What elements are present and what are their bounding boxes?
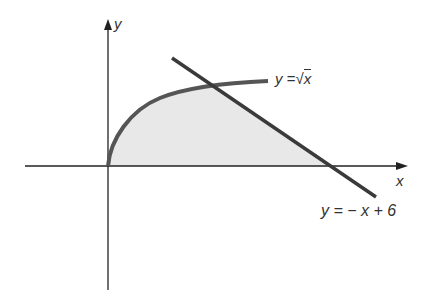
curve-label-lhs: y (275, 70, 283, 87)
y-axis-arrow-icon (104, 19, 112, 30)
curve-label-arg: x (304, 69, 312, 87)
y-axis-label: y (114, 15, 122, 32)
figure: y x y =√x y = − x + 6 (0, 0, 431, 295)
x-axis-label: x (396, 172, 404, 189)
x-axis-arrow-icon (396, 162, 408, 170)
plot-svg (0, 0, 431, 295)
curve-label: y =√x (275, 70, 311, 87)
shaded-region (108, 85, 330, 166)
line-label: y = − x + 6 (321, 202, 396, 220)
sqrt-icon: √ (295, 70, 303, 87)
